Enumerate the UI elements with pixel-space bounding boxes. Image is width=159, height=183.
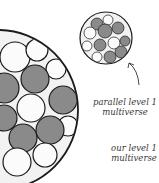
universe-bubble bbox=[17, 94, 45, 122]
universe-bubble bbox=[120, 36, 130, 46]
universe-bubble bbox=[21, 65, 49, 93]
parallel-multiverse-label: parallel level 1 multiverse bbox=[88, 97, 159, 117]
universe-bubble bbox=[103, 15, 113, 25]
universe-bubble bbox=[0, 42, 30, 72]
universe-bubble bbox=[84, 27, 96, 39]
universe-bubble bbox=[3, 148, 31, 176]
our-label-line1: our level 1 bbox=[108, 143, 159, 153]
universe-bubble bbox=[104, 51, 116, 63]
universe-bubble bbox=[82, 41, 92, 51]
universe-bubble bbox=[36, 116, 64, 144]
universe-bubble bbox=[9, 124, 37, 152]
universe-bubble bbox=[98, 24, 112, 38]
our-level-1-multiverse bbox=[0, 30, 78, 183]
parallel-label-line2: multiverse bbox=[88, 107, 159, 117]
parallel-label-line1: parallel level 1 bbox=[88, 97, 159, 107]
universe-bubble bbox=[94, 39, 106, 51]
parallel-level-1-multiverse bbox=[80, 12, 132, 64]
arrow-icon bbox=[128, 63, 139, 85]
universe-bubble bbox=[26, 39, 48, 61]
our-label-line2: multiverse bbox=[108, 153, 159, 163]
universe-bubble bbox=[33, 143, 57, 167]
our-multiverse-label: our level 1 multiverse bbox=[108, 143, 159, 163]
universe-bubble bbox=[112, 22, 124, 34]
universe-bubble bbox=[49, 86, 77, 114]
